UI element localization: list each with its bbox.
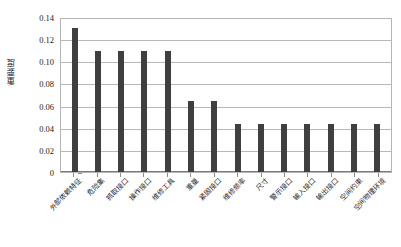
bar-slot (110, 19, 133, 172)
bar (72, 28, 78, 172)
bar (374, 124, 380, 172)
bar (211, 101, 217, 172)
x-axis-tick-label: 维修频率 (222, 177, 247, 202)
x-axis-tick-label: 维修工具 (152, 177, 177, 202)
x-axis-tick-label: 重量 (185, 177, 201, 193)
y-axis-tick-label: 0 (22, 169, 54, 178)
x-axis-tick-label: 输出接口 (316, 177, 341, 202)
bar-slot (342, 19, 365, 172)
bar-series (61, 19, 391, 172)
bar (281, 124, 287, 172)
y-axis-tick-label: 0.10 (22, 58, 54, 67)
y-axis-tick-label: 0.06 (22, 103, 54, 112)
bar (235, 124, 241, 172)
y-axis-tick-label: 0.04 (22, 125, 54, 134)
bar (188, 101, 194, 172)
bar-slot (63, 19, 86, 172)
x-axis-tick-label: 危险集 (86, 177, 107, 198)
bar-slot (203, 19, 226, 172)
bar (351, 124, 357, 172)
bar-slot (319, 19, 342, 172)
bar (165, 51, 171, 172)
bar-slot (273, 19, 296, 172)
bar-slot (86, 19, 109, 172)
bar-slot (179, 19, 202, 172)
plot-area (60, 18, 392, 173)
bar (328, 124, 334, 172)
bar (95, 51, 101, 172)
y-axis-tick-label: 0.02 (22, 147, 54, 156)
bar-slot (156, 19, 179, 172)
bar-slot (133, 19, 156, 172)
x-axis-tick-label: 紧固接口 (198, 177, 223, 202)
y-axis-tick-label: 0.08 (22, 80, 54, 89)
bar-slot (296, 19, 319, 172)
bar-slot (226, 19, 249, 172)
x-axis-tick-labels: 外部依赖特征危险集抓取接口操作接口维修工具重量紧固接口维修频率尺寸警示接口输入接… (60, 177, 392, 247)
x-axis-tick-label: 抓取接口 (105, 177, 130, 202)
bar-slot (249, 19, 272, 172)
bar (141, 51, 147, 172)
x-axis-tick-label: 尺寸 (255, 177, 271, 193)
bar-chart: 重要度 00.020.040.060.080.100.120.14 外部依赖特征… (0, 0, 401, 247)
y-axis-tick-label: 0.14 (22, 14, 54, 23)
x-axis-tick-label: 警示接口 (269, 177, 294, 202)
x-axis-tick-label: 外部依赖特征 (48, 177, 83, 212)
bar (258, 124, 264, 172)
y-axis-tick-labels: 00.020.040.060.080.100.120.14 (22, 18, 54, 173)
bar-slot (366, 19, 389, 172)
bar (118, 51, 124, 172)
x-axis-tick-label: 操作接口 (128, 177, 153, 202)
y-axis-tick-label: 0.12 (22, 36, 54, 45)
x-axis-tick-label: 输入接口 (292, 177, 317, 202)
bar (304, 124, 310, 172)
